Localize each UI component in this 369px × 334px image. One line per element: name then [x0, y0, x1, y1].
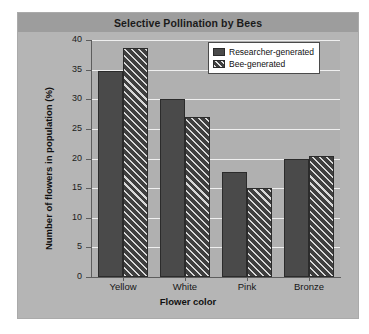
bar: [247, 188, 272, 277]
y-axis-tick-label: 35: [42, 64, 82, 74]
bar: [123, 48, 148, 277]
y-axis-tick-label: 25: [42, 123, 82, 133]
chart-title: Selective Pollination by Bees: [114, 17, 262, 29]
chart-figure: Selective Pollination by Bees Number of …: [18, 13, 358, 318]
y-axis-tick: [86, 40, 91, 41]
y-axis-tick: [86, 247, 91, 248]
y-axis-tick-label: 40: [42, 34, 82, 44]
y-axis-tick: [86, 70, 91, 71]
y-axis-tick: [86, 188, 91, 189]
y-axis-tick-label: 30: [42, 93, 82, 103]
legend-label-bee-generated: Bee-generated: [229, 59, 285, 69]
legend-item-researcher-generated: Researcher-generated: [213, 47, 314, 58]
legend-item-bee-generated: Bee-generated: [213, 58, 314, 69]
bar-group-container: [92, 40, 340, 277]
bar: [160, 99, 185, 277]
bar: [98, 71, 123, 277]
y-axis-tick: [86, 99, 91, 100]
bar: [284, 159, 309, 277]
y-axis-tick: [86, 159, 91, 160]
legend-label-researcher-generated: Researcher-generated: [229, 47, 314, 57]
legend-swatch-hatched-icon: [213, 60, 225, 68]
x-axis-tick-label: Bronze: [269, 281, 349, 292]
y-axis-tick-label: 5: [42, 241, 82, 251]
y-axis-tick: [86, 129, 91, 130]
chart-title-band: Selective Pollination by Bees: [18, 13, 358, 32]
x-axis-line: [91, 277, 341, 278]
x-axis-title: Flower color: [18, 296, 358, 307]
plot-area: [92, 40, 340, 277]
y-axis-tick-label: 10: [42, 212, 82, 222]
bar: [309, 156, 334, 277]
y-axis-tick-label: 20: [42, 153, 82, 163]
legend-swatch-solid-icon: [213, 48, 225, 56]
y-axis-tick-label: 0: [42, 271, 82, 281]
y-axis-tick-label: 15: [42, 182, 82, 192]
y-axis-line: [91, 40, 92, 278]
chart-legend: Researcher-generated Bee-generated: [208, 42, 320, 74]
bar: [185, 117, 210, 277]
y-axis-tick: [86, 277, 91, 278]
y-axis-tick: [86, 218, 91, 219]
bar: [222, 172, 247, 277]
